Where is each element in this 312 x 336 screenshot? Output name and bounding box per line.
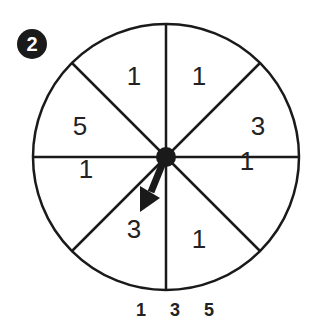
choice-3[interactable]: 5: [204, 300, 214, 321]
choice-1[interactable]: 1: [136, 300, 146, 321]
spinner-hub: [156, 147, 176, 167]
section-label: 5: [73, 111, 87, 141]
section-label: 1: [240, 146, 254, 176]
section-label: 3: [127, 214, 141, 244]
section-label: 1: [192, 61, 206, 91]
section-label: 1: [79, 154, 93, 184]
choice-2[interactable]: 3: [170, 300, 180, 321]
section-label: 1: [192, 224, 206, 254]
section-label: 1: [127, 61, 141, 91]
section-label: 3: [251, 111, 265, 141]
spinner: 1 1 3 1 1 3 1 5: [0, 0, 312, 336]
